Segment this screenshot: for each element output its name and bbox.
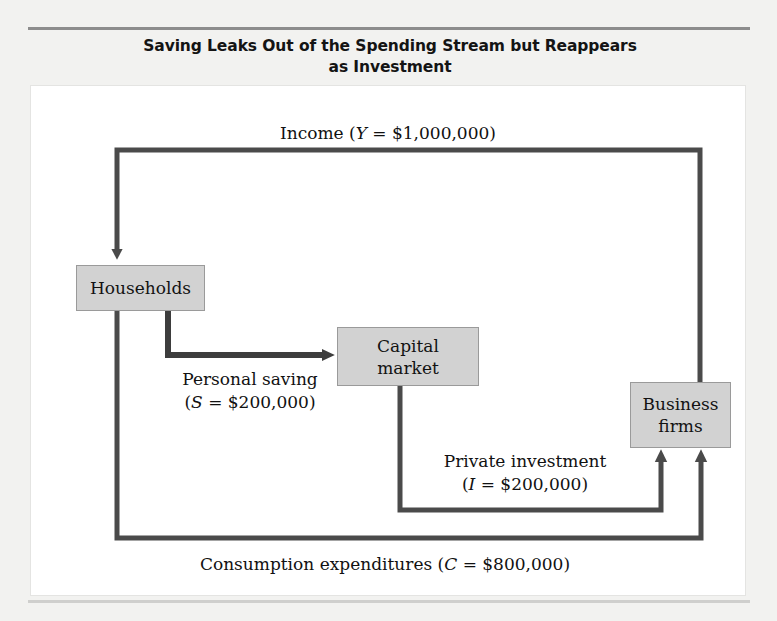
flow-label-private-investment-tail: = $200,000) [475,474,588,494]
flow-label-private-investment-open: ( [462,474,469,494]
flow-label-personal-saving-tail: = $200,000) [203,392,316,412]
flow-label-consumption-text: Consumption expenditures ( [200,554,444,574]
flow-label-consumption-tail: = $800,000) [457,554,570,574]
flow-arrow-personal-saving [168,311,323,355]
node-households-label: Households [90,277,191,299]
flow-label-income: Income (Y = $1,000,000) [188,122,588,145]
node-households[interactable]: Households [76,265,205,311]
flow-label-private-investment-name: Private investment [444,451,607,471]
flow-label-consumption: Consumption expenditures (C = $800,000) [140,553,630,576]
flow-label-personal-saving: Personal saving (S = $200,000) [140,368,360,414]
flow-label-private-investment: Private investment (I = $200,000) [410,450,640,496]
flow-symbol-personal-saving: S [191,392,203,412]
figure-bottom-rule [28,600,750,603]
flow-label-income-text: Income ( [280,123,356,143]
flow-label-income-tail: = $1,000,000) [367,123,496,143]
node-business-firms[interactable]: Business firms [630,382,731,448]
node-business-firms-label: Business firms [642,393,718,437]
flow-label-personal-saving-name: Personal saving [182,369,317,389]
node-capital-market-label: Capital market [377,335,439,379]
flow-symbol-consumption: C [444,554,457,574]
flow-symbol-income: Y [356,123,367,143]
figure-container: Saving Leaks Out of the Spending Stream … [0,0,777,621]
